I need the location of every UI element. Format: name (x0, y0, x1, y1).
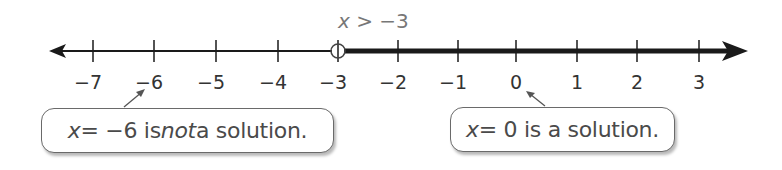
callout-text: = 0 is a solution. (479, 117, 659, 142)
callout-var: x (466, 117, 479, 142)
tick-label: 2 (631, 71, 643, 93)
tick-label: −2 (379, 71, 407, 93)
tick-label: −1 (439, 71, 467, 93)
pointer-arrow-0 (530, 94, 545, 106)
callout-not-solution: x = −6 is not a solution. (41, 108, 334, 153)
callout-emphasis: not (161, 118, 196, 143)
tick-label: 1 (571, 71, 583, 93)
tick-label: −7 (74, 71, 102, 93)
tick-label: 3 (693, 71, 705, 93)
tick-label: 0 (510, 71, 522, 93)
callout-is-solution: x = 0 is a solution. (450, 107, 675, 152)
inequality-label: x > −3 (337, 9, 409, 33)
tick-label: −5 (197, 71, 225, 93)
tick-label: −4 (259, 71, 287, 93)
tick-label: −3 (319, 71, 347, 93)
tick-labels: −7−6−5−4−3−2−10123 (74, 71, 705, 93)
callout-text: a solution. (196, 118, 307, 143)
callout-text: = −6 is (80, 118, 160, 143)
tick-label: −6 (135, 71, 163, 93)
callout-var: x (68, 118, 81, 143)
